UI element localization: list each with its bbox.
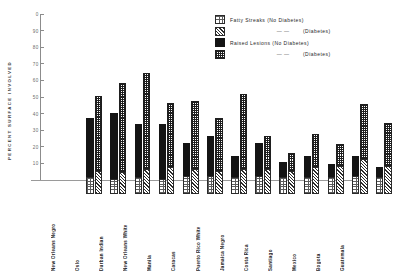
bar-group	[130, 28, 154, 194]
bar-diabetes[interactable]	[384, 123, 391, 194]
legend-ditto-dash: — —	[263, 28, 303, 34]
y-tick-label: 20	[33, 144, 41, 149]
segment-raised-lesions	[183, 143, 190, 176]
segment-raised-lesions	[312, 134, 319, 167]
x-axis-label-text: New Orleans White	[123, 183, 128, 271]
x-axis-label: Oslo	[65, 183, 89, 271]
y-tick-20: 20	[33, 144, 41, 149]
y-tick-label: 60	[33, 78, 41, 83]
x-axis-label: New Orleans Negro	[41, 183, 65, 271]
x-axis-label: Mexico	[283, 183, 307, 271]
x-axis-label-text: Caracas	[171, 183, 176, 271]
dotted-swatch	[215, 15, 225, 24]
legend-item-label: Fatty Streaks (No Diabetes)	[230, 17, 304, 23]
y-tick-50: 50	[33, 95, 41, 100]
bar-diabetes[interactable]	[119, 83, 126, 194]
segment-raised-lesions	[95, 96, 102, 171]
y-tick-label: 30	[33, 128, 41, 133]
y-axis-title-text: PERCENT SURFACE INVOLVED	[7, 61, 12, 160]
segment-raised-lesions	[328, 164, 335, 177]
segment-fatty-streaks	[384, 166, 391, 194]
y-tick-label: 90	[33, 28, 41, 33]
legend-item[interactable]: — —(Diabetes)	[215, 49, 367, 61]
segment-raised-lesions	[119, 83, 126, 173]
x-axis-label: Puerto Rico White	[186, 183, 210, 271]
x-axis-label-text: Santiago	[268, 183, 273, 271]
x-axis-labels: New Orleans NegroOsloDurban IndianNew Or…	[41, 183, 355, 271]
legend-item[interactable]: Raised Lesions (No Diabetes)	[215, 37, 367, 49]
bar-group	[82, 28, 106, 194]
segment-raised-lesions	[288, 153, 295, 171]
y-tick-30: 30	[33, 128, 41, 133]
y-tick-label: 10	[33, 161, 41, 166]
x-axis-label: New Orleans White	[113, 183, 137, 271]
segment-raised-lesions	[336, 144, 343, 166]
segment-raised-lesions	[86, 118, 93, 178]
checkered-swatch	[215, 50, 225, 59]
bar-diabetes[interactable]	[240, 94, 247, 194]
bar-group	[106, 28, 130, 194]
segment-raised-lesions	[240, 94, 247, 169]
bar-diabetes[interactable]	[143, 73, 150, 194]
y-tick-10: 10	[33, 161, 41, 166]
y-tick-90: 90	[33, 28, 41, 33]
segment-raised-lesions	[167, 103, 174, 168]
solid-swatch	[215, 38, 225, 47]
bar-diabetes[interactable]	[95, 96, 102, 194]
y-tick-label: 50	[33, 95, 41, 100]
segment-fatty-streaks	[360, 159, 367, 194]
segment-raised-lesions	[143, 73, 150, 169]
y-tick-label: 40	[33, 111, 41, 116]
y-tick-60: 60	[33, 78, 41, 83]
legend-item-label: — —(Diabetes)	[230, 51, 331, 57]
x-axis-label-text: Oslo	[75, 183, 80, 271]
x-axis-label-text: New Orleans Negro	[51, 183, 56, 271]
bar-group	[154, 28, 178, 194]
segment-raised-lesions	[360, 104, 367, 159]
y-tick-label: 70	[33, 61, 41, 66]
chart-legend: Fatty Streaks (No Diabetes)— —(Diabetes)…	[215, 14, 367, 60]
x-axis-label: Jamaica Negro	[210, 183, 234, 271]
segment-raised-lesions	[135, 124, 142, 177]
legend-item[interactable]: — —(Diabetes)	[215, 26, 367, 38]
bar-no-diabetes[interactable]	[110, 113, 117, 194]
segment-raised-lesions	[264, 136, 271, 169]
legend-item-label: Raised Lesions (No Diabetes)	[230, 40, 309, 46]
y-tick-40: 40	[33, 111, 41, 116]
bar-group	[372, 28, 396, 194]
segment-raised-lesions	[159, 124, 166, 179]
x-axis-label-text: Bogota	[316, 183, 321, 271]
legend-ditto-dash: — —	[263, 51, 303, 57]
segment-raised-lesions	[231, 156, 238, 178]
y-tick-80: 80	[33, 45, 41, 50]
segment-fatty-streaks	[376, 177, 383, 194]
segment-raised-lesions	[376, 167, 383, 177]
segment-raised-lesions	[279, 162, 286, 177]
x-axis-label: Bogota	[307, 183, 331, 271]
segment-raised-lesions	[207, 136, 214, 176]
y-tick-70: 70	[33, 61, 41, 66]
segment-raised-lesions	[352, 156, 359, 176]
x-axis-label-text: Puerto Rico White	[196, 183, 201, 271]
legend-item-label: — —(Diabetes)	[230, 28, 331, 34]
segment-raised-lesions	[215, 118, 222, 171]
segment-raised-lesions	[384, 123, 391, 166]
hatched-swatch	[215, 27, 225, 36]
x-axis-label-text: Guatemala	[340, 183, 345, 271]
x-axis-label: Guatemala	[331, 183, 355, 271]
y-tick-label: 80	[33, 45, 41, 50]
x-axis-label: Santiago	[258, 183, 282, 271]
bar-diabetes[interactable]	[191, 101, 198, 194]
x-axis-label-text: Durban Indian	[99, 183, 104, 271]
segment-raised-lesions	[191, 101, 198, 169]
legend-item[interactable]: Fatty Streaks (No Diabetes)	[215, 14, 367, 26]
bar-diabetes[interactable]	[167, 103, 174, 194]
segment-raised-lesions	[110, 113, 117, 179]
bar-group	[179, 28, 203, 194]
bar-no-diabetes[interactable]	[376, 167, 383, 194]
y-axis-title: PERCENT SURFACE INVOLVED	[2, 28, 16, 193]
x-axis-label-text: Mexico	[292, 183, 297, 271]
bar-diabetes[interactable]	[360, 104, 367, 194]
x-axis-label-text: Jamaica Negro	[220, 183, 225, 271]
